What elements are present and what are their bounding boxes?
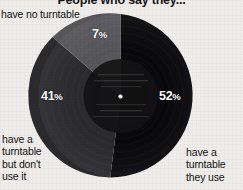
pie-chart-figure: People who say they...: [0, 0, 243, 190]
slice-value-7: 7%: [92, 27, 107, 41]
callout-line: use it: [2, 170, 42, 182]
slice-value-41-number: 41: [41, 89, 54, 103]
callout-line: have a: [186, 146, 226, 158]
percent-sign: %: [172, 91, 180, 102]
callout-line: have a: [2, 133, 42, 145]
slice-value-7-number: 7: [92, 27, 99, 41]
callout-line: but don't: [2, 158, 42, 170]
percent-sign: %: [54, 91, 62, 102]
slice-value-52: 52%: [159, 89, 180, 103]
slice-value-52-number: 52: [159, 89, 172, 103]
callout-line: turntable: [186, 158, 226, 170]
callout-line: turntable: [2, 145, 42, 157]
chart-title: People who say they...: [0, 0, 243, 7]
callout-line: have no turntable: [1, 8, 80, 20]
callout-line: they use: [186, 171, 226, 183]
slice-value-41: 41%: [41, 89, 62, 103]
callout-have-turntable-they-use: have a turntable they use: [186, 146, 226, 183]
percent-sign: %: [99, 29, 107, 40]
spindle-hole-icon: [118, 94, 122, 98]
callout-have-turntable-but-dont-use: have a turntable but don't use it: [2, 133, 42, 183]
callout-have-no-turntable: have no turntable: [1, 8, 80, 20]
